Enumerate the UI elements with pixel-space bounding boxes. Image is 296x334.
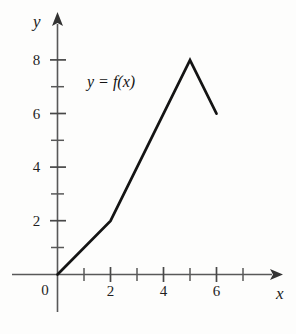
y-axis-label: y [33,13,41,30]
x-tick-label-2: 2 [103,284,118,299]
x-axis-label: x [276,285,284,302]
x-tick-label-6: 6 [209,284,224,299]
y-tick-label-4: 4 [29,160,44,175]
y-tick-label-6: 6 [29,107,44,122]
function-curve [58,60,217,274]
function-graph-figure: y x 0 2 4 6 2 4 6 8 y = f(x) [0,0,296,334]
curve-equation-label: y = f(x) [87,74,135,90]
x-tick-label-4: 4 [156,284,171,299]
origin-label: 0 [38,283,52,298]
y-tick-label-8: 8 [29,53,44,68]
y-axis-arrowhead [52,12,63,26]
y-axis [52,12,63,312]
y-tick-label-2: 2 [29,214,44,229]
